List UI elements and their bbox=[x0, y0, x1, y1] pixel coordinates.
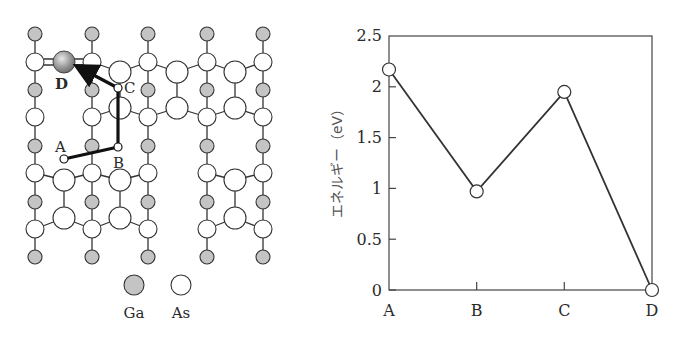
x-tick-d: D bbox=[646, 301, 659, 320]
legend-as-swatch bbox=[171, 275, 191, 295]
x-tick-b: B bbox=[471, 301, 483, 320]
x-tick-labels: A B C D bbox=[382, 301, 658, 320]
x-tick-c: C bbox=[558, 301, 570, 320]
y-tick-marks bbox=[389, 87, 396, 290]
energy-chart: 0 0.5 1 1.5 2 2.5 A B C D bbox=[320, 0, 675, 349]
label-b: B bbox=[113, 154, 124, 172]
y-axis-label: エネルギー（eV） bbox=[326, 102, 346, 218]
y-tick-0: 0 bbox=[372, 281, 382, 300]
adatom-d bbox=[53, 51, 75, 73]
gaas-lattice-diagram: D C A B Ga As bbox=[0, 0, 300, 349]
legend-as-label: As bbox=[171, 304, 191, 322]
x-tick-a: A bbox=[382, 301, 395, 320]
point-d bbox=[646, 284, 659, 297]
legend: Ga As bbox=[124, 275, 191, 322]
y-tick-2.5: 2.5 bbox=[357, 26, 382, 45]
point-a bbox=[383, 63, 396, 76]
y-tick-1: 1 bbox=[372, 179, 382, 198]
energy-line bbox=[389, 70, 652, 291]
site-c bbox=[114, 84, 122, 92]
plot-frame bbox=[389, 36, 652, 290]
chart-svg: 0 0.5 1 1.5 2 2.5 A B C D bbox=[320, 0, 675, 349]
label-a: A bbox=[54, 138, 66, 156]
label-d: D bbox=[55, 75, 68, 93]
point-c bbox=[558, 85, 571, 98]
lattice-svg: D C A B Ga As bbox=[0, 0, 300, 349]
y-tick-0.5: 0.5 bbox=[357, 230, 382, 249]
y-tick-labels: 0 0.5 1 1.5 2 2.5 bbox=[357, 26, 382, 300]
legend-ga-swatch bbox=[124, 275, 144, 295]
y-tick-1.5: 1.5 bbox=[357, 128, 382, 147]
x-tick-marks bbox=[477, 282, 565, 290]
site-a bbox=[60, 155, 68, 163]
y-tick-2: 2 bbox=[372, 77, 382, 96]
legend-ga-label: Ga bbox=[124, 304, 145, 322]
point-b bbox=[470, 185, 483, 198]
data-markers bbox=[383, 63, 659, 297]
site-b bbox=[114, 143, 122, 151]
label-c: C bbox=[124, 79, 135, 97]
